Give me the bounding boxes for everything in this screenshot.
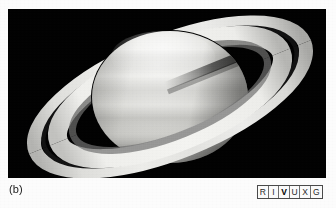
legend-band-u: U bbox=[290, 186, 301, 198]
legend-band-g: G bbox=[311, 186, 322, 198]
legend-band-i: I bbox=[269, 186, 280, 198]
saturn-illustration bbox=[8, 9, 326, 178]
legend-band-x: X bbox=[300, 186, 311, 198]
figure-panel: (b) R I V U X G bbox=[0, 0, 336, 208]
legend-band-r: R bbox=[258, 186, 269, 198]
panel-label: (b) bbox=[9, 184, 23, 195]
wavelength-legend: R I V U X G bbox=[257, 185, 323, 199]
photograph-canvas bbox=[8, 9, 326, 178]
legend-band-v: V bbox=[279, 186, 290, 198]
saturn-photograph bbox=[8, 9, 326, 178]
